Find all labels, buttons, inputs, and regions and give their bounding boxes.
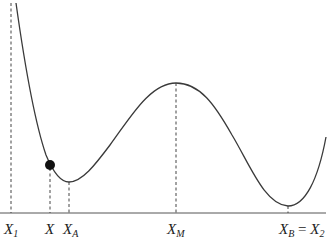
label-xa: XA bbox=[62, 221, 79, 239]
potential-curve bbox=[16, 3, 326, 206]
label-xb: XB = X2 bbox=[278, 221, 324, 239]
ball bbox=[45, 160, 55, 170]
label-xm: XM bbox=[166, 221, 185, 239]
label-x1: X1 bbox=[3, 221, 18, 239]
label-x: X bbox=[44, 221, 55, 237]
energy-diagram: X1 X XA XM XB = X2 bbox=[0, 0, 333, 240]
